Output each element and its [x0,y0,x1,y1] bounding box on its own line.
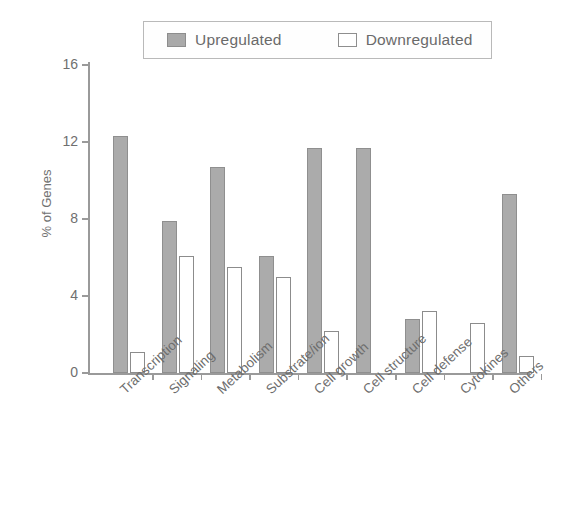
bar-downregulated-metabolism [227,267,242,373]
x-axis-tick [541,374,543,380]
y-axis-tick-label: 4 [52,287,78,303]
x-axis-tick [492,374,494,380]
x-axis-tick [152,374,154,380]
y-axis-tick [82,218,89,220]
x-axis-tick [395,374,397,380]
y-axis-tick [82,372,89,374]
x-axis-tick [298,374,300,380]
plot-area [0,0,571,508]
y-axis-tick-label: 0 [52,364,78,380]
y-axis-tick-label: 16 [52,56,78,72]
y-axis-tick-label: 12 [52,133,78,149]
bar-downregulated-substrate-ion [276,277,291,373]
y-axis-tick [82,295,89,297]
x-axis-tick [444,374,446,380]
y-axis-tick-label: 8 [52,210,78,226]
bar-upregulated-metabolism [210,167,225,373]
bar-upregulated-transcription [113,136,128,373]
x-axis-tick [346,374,348,380]
x-axis-tick [201,374,203,380]
bar-upregulated-others [502,194,517,373]
x-axis-tick [249,374,251,380]
bar-chart: Upregulated Downregulated % of Genes 048… [0,0,571,508]
y-axis-tick [82,64,89,66]
y-axis-tick [82,141,89,143]
bar-downregulated-signaling [179,256,194,373]
bar-upregulated-cell-structure [356,148,371,373]
